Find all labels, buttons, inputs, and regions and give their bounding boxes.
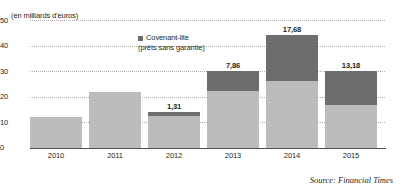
- legend-item-covenant-lite: Covenant-lite: [138, 33, 205, 43]
- bar-group-2013[interactable]: 7,86: [207, 71, 259, 148]
- x-tick-label-2015: 2015: [325, 152, 377, 160]
- legend: Covenant-lite (prêts sans garantie): [138, 33, 205, 53]
- y-tick-label-0: 0: [0, 144, 26, 152]
- x-tick-label-2012: 2012: [148, 152, 200, 160]
- y-tick-label-20: 20: [0, 93, 26, 101]
- bar-group-2011[interactable]: [89, 92, 141, 148]
- bar-segment-covenant-lite-2015: [325, 71, 377, 105]
- bar-segment-base-2013: [207, 91, 259, 148]
- plot-area: 1,31 7,86 17,68 13,18: [30, 20, 385, 148]
- bar-value-label-2015: 13,18: [342, 62, 360, 70]
- bar-value-label-2012: 1,31: [167, 103, 181, 111]
- y-tick-label-10: 10: [0, 119, 26, 127]
- x-axis-baseline: [30, 148, 386, 149]
- bar-segment-covenant-lite-2012: [148, 112, 200, 115]
- legend-swatch-icon: [138, 36, 143, 41]
- bar-segment-base-2011: [89, 92, 141, 148]
- gridline-40: [30, 46, 385, 47]
- y-tick-label-50: 50: [0, 17, 26, 25]
- source-note: Source: Financial Times: [310, 175, 393, 185]
- chart-container: (en milliards d'euros) 50 40 30 20 10 0 …: [0, 0, 401, 190]
- bar-segment-base-2012: [148, 116, 200, 149]
- bar-segment-base-2015: [325, 105, 377, 148]
- legend-label-covenant-lite: Covenant-lite: [146, 33, 189, 43]
- bar-group-2015[interactable]: 13,18: [325, 71, 377, 148]
- bar-segment-base-2014: [266, 81, 318, 148]
- bar-segment-covenant-lite-2014: [266, 35, 318, 80]
- gridline-50: [30, 20, 385, 21]
- legend-sublabel: (prêts sans garantie): [138, 43, 205, 53]
- bar-value-label-2014: 17,68: [283, 26, 301, 34]
- bar-segment-covenant-lite-2013: [207, 71, 259, 91]
- y-tick-label-40: 40: [0, 42, 26, 50]
- bar-group-2010[interactable]: [30, 117, 82, 148]
- bar-group-2012[interactable]: 1,31: [148, 112, 200, 148]
- bar-group-2014[interactable]: 17,68: [266, 35, 318, 148]
- x-tick-label-2011: 2011: [89, 152, 141, 160]
- x-tick-label-2010: 2010: [30, 152, 82, 160]
- bar-segment-base-2010: [30, 117, 82, 148]
- x-tick-label-2013: 2013: [207, 152, 259, 160]
- y-tick-label-30: 30: [0, 68, 26, 76]
- bar-value-label-2013: 7,86: [226, 62, 240, 70]
- x-tick-label-2014: 2014: [266, 152, 318, 160]
